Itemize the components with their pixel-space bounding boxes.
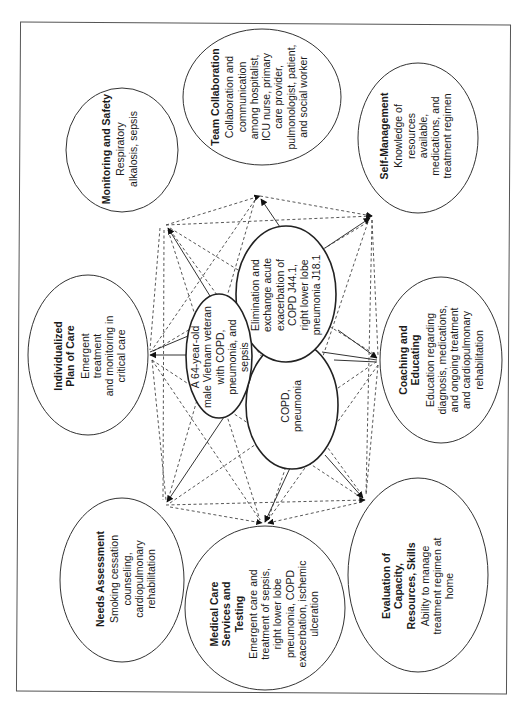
label-team-collaboration: Team Collaboration Collaboration and com… (209, 37, 315, 157)
label-patient: A 64-year-old male Vietnam veteran with … (189, 301, 251, 413)
label-self-management: Self-Management Knowledge of resources a… (378, 86, 458, 186)
label-evaluation: Evaluation of Capacity, Resources, Skill… (380, 530, 464, 642)
label-individualized-plan: Individualized Plan of Care Emergent tre… (52, 304, 124, 408)
label-medical-care: Medical Care Services and Testing Emerge… (208, 550, 320, 678)
label-medical-diagnosis: COPD, pneumonia (279, 371, 305, 441)
label-needs-assessment: Needs Assessment Smoking cessation couns… (94, 527, 162, 631)
label-monitoring-safety: Monitoring and Safety Respiratory alkalo… (100, 89, 144, 209)
label-coaching-educating: Coaching and Educating Education regardi… (397, 299, 485, 421)
label-nursing-diagnosis: Elimination and exchange acute exacerbat… (249, 243, 323, 347)
